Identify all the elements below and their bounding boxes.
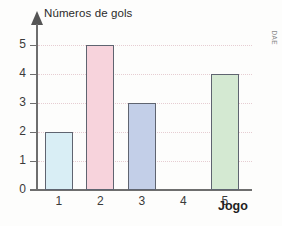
x-axis-tick-label: 4 — [170, 194, 196, 208]
x-axis-tick-label: 3 — [129, 194, 155, 208]
bar — [45, 132, 73, 190]
x-axis-tick-label: 2 — [87, 194, 113, 208]
bar — [211, 74, 239, 190]
x-axis-tick-label: 1 — [46, 194, 72, 208]
bar — [128, 103, 156, 190]
credit-label: DAE — [271, 30, 278, 45]
bars-layer — [0, 0, 282, 226]
x-axis-title: Jogo — [218, 199, 248, 213]
bar-chart-figure: Números de gols 012345 12345 Jogo DAE — [0, 0, 282, 226]
bar — [86, 45, 114, 190]
